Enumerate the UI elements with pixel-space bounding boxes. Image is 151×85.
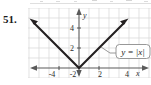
equation-callout-label: y = |x|	[120, 47, 145, 57]
y-tick-label-2: 2	[70, 44, 74, 53]
x-axis-label: x	[135, 69, 140, 78]
x-tick-label-neg2: -2	[70, 70, 77, 78]
y-tick-label-4: 4	[70, 24, 74, 33]
figure-container: 51.	[0, 0, 151, 85]
problem-number: 51.	[3, 13, 17, 25]
clipped-text-artifact	[30, 0, 151, 5]
equation-callout: y = |x|	[116, 45, 150, 59]
x-tick-label-neg4: -4	[49, 70, 56, 78]
x-tick-label-2: 2	[98, 70, 102, 78]
y-axis-label: y	[82, 11, 87, 20]
x-tick-label-4: 4	[125, 70, 129, 78]
coordinate-plot: -4 -2 2 4 2 4 y x y = |x|	[28, 8, 151, 78]
